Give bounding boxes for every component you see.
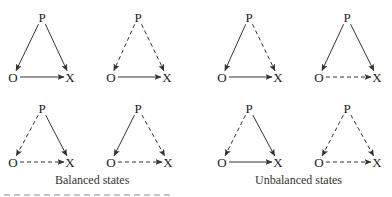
unbalanced-states-caption: Unbalanced states [255,173,342,188]
node-p-label: P [38,10,45,25]
node-o-label: O [106,70,115,85]
p-to-x-positive-arrow [46,115,67,156]
node-x-label: X [162,70,172,85]
p-to-x-positive-arrow [253,115,275,156]
node-o-label: O [8,155,17,170]
p-to-x-negative-arrow [142,115,165,156]
node-p-label: P [343,10,350,25]
p-to-x-positive-arrow [351,24,374,71]
triangle-bal-1: POX [8,10,75,85]
node-p-label: P [134,101,141,116]
node-p-label: P [245,101,252,116]
p-to-o-negative-arrow [16,115,38,156]
node-p-label: P [343,101,350,116]
node-x-label: X [372,155,382,170]
p-to-x-negative-arrow [351,115,374,156]
node-x-label: X [65,155,75,170]
p-to-x-positive-arrow [45,24,67,70]
p-to-o-negative-arrow [225,115,245,156]
node-x-label: X [65,70,75,85]
node-p-label: P [38,101,45,116]
triangle-bal-3: POX [8,101,75,170]
p-to-o-positive-arrow [16,24,38,70]
p-to-o-negative-arrow [322,115,343,156]
triangle-unb-1: POX [217,10,283,85]
node-p-label: P [245,10,252,25]
p-to-o-positive-arrow [114,115,134,156]
node-p-label: P [134,10,141,25]
node-o-label: O [314,70,323,85]
triangle-bal-2: POX [106,10,172,85]
triangle-unb-2: POX [314,10,382,85]
p-to-o-positive-arrow [225,24,246,70]
node-o-label: O [314,155,323,170]
node-o-label: O [217,70,226,85]
triangle-bal-4: POX [106,101,173,170]
p-to-o-negative-arrow [114,24,135,70]
balance-theory-diagram: POXPOXPOXPOXPOXPOXPOXPOX [0,0,392,197]
node-o-label: O [8,70,17,85]
balanced-states-caption: Balanced states [55,173,129,188]
node-o-label: O [217,155,226,170]
triangle-unb-4: POX [314,101,382,170]
p-to-o-positive-arrow [322,24,344,70]
node-o-label: O [106,155,115,170]
clipped-figure-caption [4,192,174,197]
node-x-label: X [273,70,283,85]
node-x-label: X [163,155,173,170]
p-to-x-negative-arrow [252,24,274,70]
node-x-label: X [273,155,283,170]
triangles-layer: POXPOXPOXPOXPOXPOXPOXPOX [8,10,382,170]
p-to-x-negative-arrow [141,24,163,70]
triangle-unb-3: POX [217,101,283,170]
node-x-label: X [372,70,382,85]
